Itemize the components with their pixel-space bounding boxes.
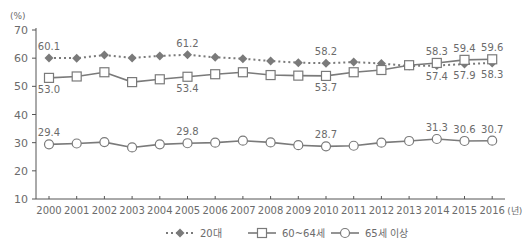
square-marker [238, 68, 247, 77]
circle-marker [349, 141, 358, 150]
circle-marker [155, 140, 164, 149]
data-label: 57.9 [453, 70, 475, 81]
square-marker [377, 65, 386, 74]
x-tick-label: 2016 [479, 205, 504, 216]
circle-marker [183, 139, 192, 148]
data-label: 53.7 [315, 82, 337, 93]
diamond-marker [294, 58, 303, 67]
square-marker [45, 73, 54, 82]
data-label: 57.4 [426, 71, 448, 82]
data-label: 58.3 [426, 46, 448, 57]
square-marker [155, 75, 164, 84]
circle-marker [100, 138, 109, 147]
circle-marker [266, 138, 275, 147]
x-tick-label: 2003 [119, 205, 144, 216]
diamond-marker [176, 229, 185, 238]
circle-marker [128, 143, 137, 152]
diamond-marker [45, 53, 54, 62]
diamond-marker [238, 54, 247, 63]
circle-marker [294, 141, 303, 150]
diamond-marker [266, 56, 275, 65]
square-marker [183, 72, 192, 81]
square-marker [349, 68, 358, 77]
y-axis: 10203040506070(%) [10, 11, 36, 206]
y-tick-label: 30 [14, 137, 28, 150]
data-label: 30.7 [481, 124, 503, 135]
legend-item-1: 60~64세 [248, 228, 325, 239]
square-marker [460, 55, 469, 64]
square-marker [72, 72, 81, 81]
square-marker [322, 71, 331, 80]
circle-marker [238, 136, 247, 145]
diamond-marker [72, 54, 81, 63]
y-tick-label: 20 [14, 165, 28, 178]
diamond-marker [183, 50, 192, 59]
diamond-marker [128, 53, 137, 62]
diamond-marker [100, 51, 109, 60]
x-tick-label: 2015 [452, 205, 477, 216]
x-tick-label: 2006 [202, 205, 227, 216]
circle-marker [341, 229, 350, 238]
data-label: 53.0 [38, 84, 60, 95]
data-label: 58.3 [481, 69, 503, 80]
legend-label: 20대 [200, 228, 222, 239]
circle-marker [45, 140, 54, 149]
y-tick-label: 60 [14, 52, 28, 65]
y-tick-label: 10 [14, 193, 28, 206]
y-axis-unit: (%) [10, 11, 26, 21]
circle-marker [460, 136, 469, 145]
circle-marker [488, 136, 497, 145]
square-marker [488, 55, 497, 64]
x-axis-unit: (년) [507, 206, 522, 216]
square-marker [258, 229, 267, 238]
diamond-marker [155, 51, 164, 60]
data-label: 30.6 [453, 124, 475, 135]
square-marker [211, 70, 220, 79]
legend: 20대60~64세65세 이상 [166, 228, 408, 239]
line-chart: 10203040506070(%) 2000200120022003200420… [0, 0, 529, 246]
legend-label: 65세 이상 [365, 228, 408, 239]
y-tick-label: 70 [14, 24, 28, 37]
square-marker [294, 71, 303, 80]
circle-marker [432, 135, 441, 144]
y-tick-label: 50 [14, 80, 28, 93]
data-label: 61.2 [176, 38, 198, 49]
x-tick-label: 2013 [396, 205, 421, 216]
circle-marker [72, 139, 81, 148]
series-2 [45, 135, 497, 152]
square-marker [405, 61, 414, 70]
data-label: 59.6 [481, 42, 503, 53]
x-tick-label: 2005 [175, 205, 200, 216]
x-tick-label: 2012 [369, 205, 394, 216]
circle-marker [211, 138, 220, 147]
x-tick-label: 2004 [147, 205, 172, 216]
x-tick-label: 2010 [313, 205, 338, 216]
x-tick-label: 2011 [341, 205, 366, 216]
circle-marker [377, 138, 386, 147]
x-tick-label: 2014 [424, 205, 449, 216]
diamond-marker [322, 59, 331, 68]
data-label: 59.4 [453, 43, 475, 54]
x-axis: 2000200120022003200420052006200720082009… [36, 196, 522, 216]
x-tick-label: 2002 [92, 205, 117, 216]
data-label: 29.4 [38, 127, 60, 138]
diamond-marker [349, 58, 358, 67]
series-layer [45, 50, 497, 152]
x-tick-label: 2000 [36, 205, 61, 216]
data-label: 31.3 [426, 122, 448, 133]
x-tick-label: 2008 [258, 205, 283, 216]
circle-marker [405, 136, 414, 145]
data-label: 60.1 [38, 41, 60, 52]
x-tick-label: 2009 [286, 205, 311, 216]
legend-item-2: 65세 이상 [331, 228, 408, 239]
x-tick-label: 2007 [230, 205, 255, 216]
square-marker [266, 71, 275, 80]
square-marker [100, 68, 109, 77]
data-label: 58.2 [315, 46, 337, 57]
x-tick-label: 2001 [64, 205, 89, 216]
y-tick-label: 40 [14, 109, 28, 122]
square-marker [432, 58, 441, 67]
diamond-marker [211, 53, 220, 62]
data-label: 28.7 [315, 129, 337, 140]
data-labels: 60.161.258.257.457.958.353.053.453.758.3… [38, 38, 503, 141]
